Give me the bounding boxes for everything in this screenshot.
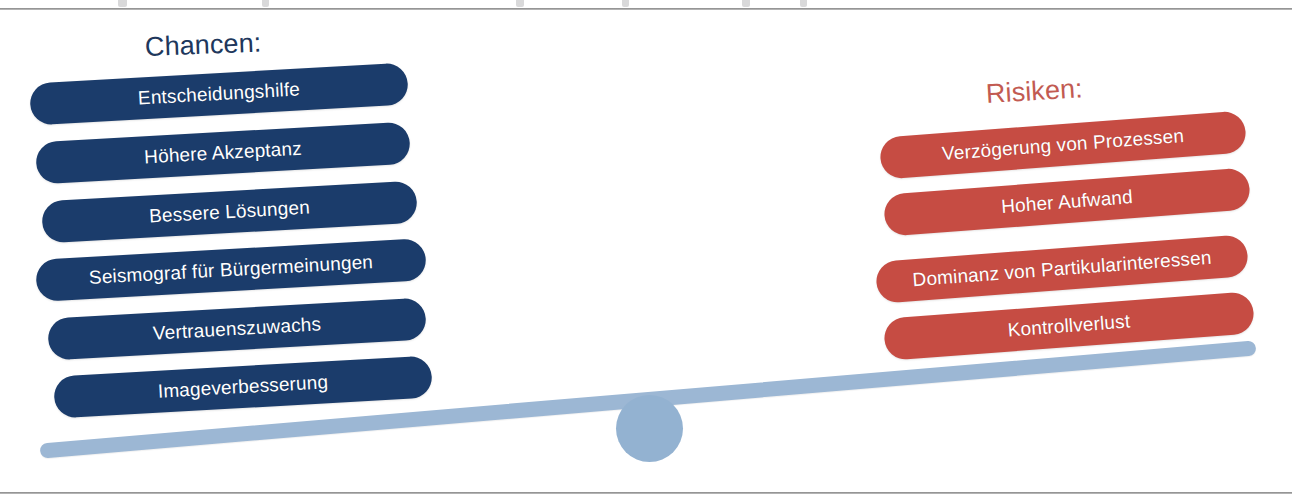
risiko-pill[interactable]: Dominanz von Partikularinteressen [875, 234, 1249, 304]
cropped-text-ghost [118, 0, 127, 7]
chance-pill-label: Vertrauenszuwachs [152, 313, 321, 344]
cropped-text-ghost [622, 0, 629, 7]
slide-canvas: Chancen: Risiken: Entscheidungshilfe Höh… [0, 0, 1292, 501]
chancen-heading: Chancen: [144, 28, 261, 63]
seesaw-fulcrum [616, 395, 683, 462]
risiko-pill-label: Verzögerung von Prozessen [941, 125, 1184, 165]
risiko-pill-label: Hoher Aufwand [1000, 186, 1133, 218]
chance-pill-label: Imageverbesserung [157, 371, 328, 402]
cropped-text-ghost [742, 0, 750, 7]
risiko-pill[interactable]: Verzögerung von Prozessen [879, 110, 1247, 179]
cropped-text-ghost [516, 0, 524, 7]
risiken-heading: Risiken: [985, 73, 1084, 110]
risiko-pill-label: Kontrollverlust [1007, 310, 1131, 341]
risiko-pill-label: Dominanz von Partikularinteressen [912, 247, 1212, 291]
chance-pill-label: Seismograf für Bürgermeinungen [88, 251, 373, 289]
chance-pill[interactable]: Bessere Lösungen [41, 181, 418, 244]
chance-pill-label: Bessere Lösungen [149, 197, 311, 228]
bottom-divider-rule [0, 492, 1292, 494]
chance-pill-label: Entscheidungshilfe [137, 78, 300, 109]
cropped-text-ghost [800, 0, 807, 7]
risiko-pill[interactable]: Hoher Aufwand [883, 167, 1251, 236]
chance-pill[interactable]: Höhere Akzeptanz [35, 122, 411, 185]
chance-pill[interactable]: Entscheidungshilfe [29, 62, 409, 125]
chance-pill[interactable]: Imageverbesserung [53, 355, 433, 418]
cropped-text-ghost [262, 0, 269, 7]
chance-pill[interactable]: Vertrauenszuwachs [47, 297, 427, 360]
chance-pill[interactable]: Seismograf für Bürgermeinungen [35, 238, 427, 302]
top-divider-rule [0, 8, 1292, 10]
chance-pill-label: Höhere Akzeptanz [144, 138, 303, 169]
